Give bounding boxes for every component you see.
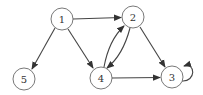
node-label: 5	[21, 74, 27, 85]
node-5: 5	[13, 68, 35, 90]
edge-1-4	[68, 29, 93, 68]
node-label: 2	[130, 12, 136, 23]
edge-2-3	[140, 27, 165, 67]
node-label: 3	[169, 72, 175, 83]
edge-1-2	[73, 18, 121, 20]
node-1: 1	[51, 8, 73, 30]
directed-graph: 1 2 3 4 5	[0, 0, 203, 95]
node-label: 4	[98, 73, 104, 84]
node-4: 4	[90, 67, 112, 89]
edge-2-4	[107, 28, 130, 68]
node-label: 1	[59, 14, 65, 25]
edge-1-5	[32, 28, 55, 69]
edge-4-3	[112, 78, 160, 79]
edge-3-3-self-loop	[182, 65, 193, 81]
node-2: 2	[122, 6, 144, 28]
node-3: 3	[161, 66, 183, 88]
